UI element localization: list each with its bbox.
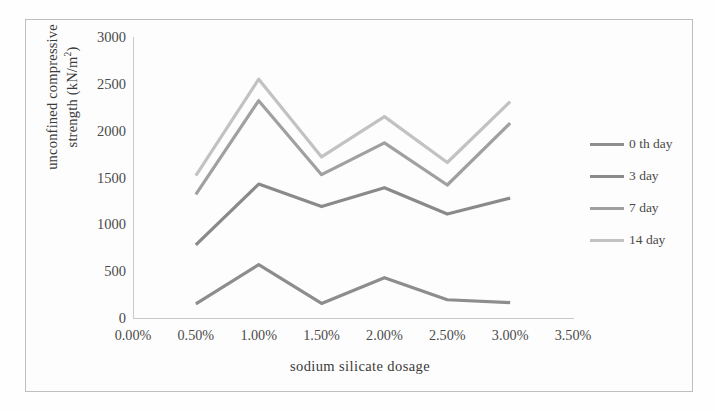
y-tick-label: 3000 xyxy=(72,29,126,46)
legend-label: 7 day xyxy=(629,200,659,216)
legend-item: 14 day xyxy=(590,224,690,256)
legend-color-swatch xyxy=(590,143,624,146)
legend-color-swatch xyxy=(590,239,624,242)
legend-color-swatch xyxy=(590,207,624,210)
y-tick-label: 1500 xyxy=(72,169,126,186)
chart-legend: 0 th day3 day7 day14 day xyxy=(590,128,690,256)
legend-item: 0 th day xyxy=(590,128,690,160)
x-tick-label: 0.50% xyxy=(166,327,226,344)
y-tick-label: 500 xyxy=(72,263,126,280)
chart-figure: unconfined compressive strength (kN/m2) … xyxy=(0,0,715,411)
x-tick-label: 2.00% xyxy=(354,327,414,344)
y-tick-label: 0 xyxy=(72,310,126,327)
legend-label: 14 day xyxy=(629,232,665,248)
x-axis-title: sodium silicate dosage xyxy=(150,358,570,375)
legend-item: 3 day xyxy=(590,160,690,192)
legend-label: 3 day xyxy=(629,168,659,184)
plot-area xyxy=(133,37,573,318)
y-axis-tick-labels: 050010001500200025003000 xyxy=(70,37,126,318)
series-line xyxy=(196,184,510,245)
y-tick-label: 2000 xyxy=(72,122,126,139)
x-axis-tick-labels: 0.00%0.50%1.00%1.50%2.00%2.50%3.00%3.50% xyxy=(98,327,638,349)
series-lines xyxy=(133,37,573,318)
x-tick-label: 1.50% xyxy=(292,327,352,344)
x-tick-label: 0.00% xyxy=(103,327,163,344)
legend-color-swatch xyxy=(590,175,624,178)
series-line xyxy=(196,79,510,175)
y-tick-label: 2500 xyxy=(72,75,126,92)
x-tick-label: 2.50% xyxy=(417,327,477,344)
x-tick-label: 3.00% xyxy=(480,327,540,344)
x-tick-label: 3.50% xyxy=(543,327,603,344)
legend-item: 7 day xyxy=(590,192,690,224)
x-tick-label: 1.00% xyxy=(229,327,289,344)
y-axis-title-line1: unconfined compressive xyxy=(43,0,62,227)
x-axis-line xyxy=(133,318,574,319)
legend-label: 0 th day xyxy=(629,136,673,152)
y-tick-label: 1000 xyxy=(72,216,126,233)
series-line xyxy=(196,265,510,304)
